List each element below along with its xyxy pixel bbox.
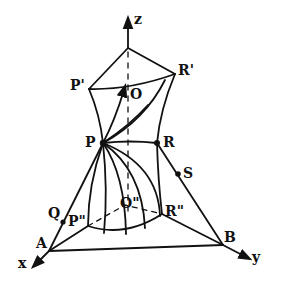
label-P: P	[85, 135, 96, 149]
side-lower-left	[88, 143, 103, 226]
cone-edge-left	[89, 48, 128, 89]
curve-P-R	[103, 142, 157, 144]
label-P-dprime: P"	[68, 214, 86, 228]
label-A: A	[36, 236, 47, 250]
line-A-B	[49, 245, 223, 251]
label-R-prime: R'	[178, 63, 194, 77]
label-O: O	[130, 87, 142, 101]
point-S	[175, 171, 181, 177]
label-Q: Q	[48, 206, 60, 220]
y-axis	[223, 245, 246, 257]
point-R	[154, 140, 160, 146]
label-R-dprime: R"	[165, 204, 184, 218]
label-S: S	[183, 166, 193, 180]
label-B: B	[224, 230, 236, 244]
label-y: y	[252, 250, 260, 264]
label-x: x	[18, 256, 26, 270]
curve-down-1	[103, 143, 106, 233]
line-P-A	[49, 143, 103, 251]
x-axis	[36, 251, 49, 264]
label-z: z	[134, 12, 142, 26]
point-O	[122, 90, 126, 94]
line-R-B	[157, 143, 223, 245]
label-R: R	[163, 135, 175, 149]
curve-down-3	[103, 143, 145, 228]
point-P	[100, 140, 106, 146]
side-upper-right	[157, 74, 175, 143]
curve-P-mid	[103, 105, 148, 143]
diagram-canvas: z P' R' O P R S Q P" O" R" A B x y	[0, 0, 282, 282]
label-P-prime: P'	[70, 78, 85, 92]
label-O-dprime: O"	[120, 196, 140, 210]
cone-edge-right	[128, 48, 175, 74]
point-Q	[60, 219, 65, 224]
